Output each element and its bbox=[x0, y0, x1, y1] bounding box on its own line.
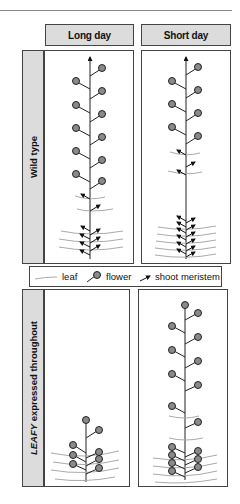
leaf-icon bbox=[35, 277, 57, 279]
legend: leaf flower shoot meristem bbox=[29, 266, 222, 287]
panel-wild-type-short-day bbox=[141, 50, 231, 264]
row-label-leafy: LEAFY expressed throughout bbox=[22, 289, 44, 487]
plant-diagram bbox=[142, 51, 232, 265]
plant-diagram bbox=[139, 290, 229, 488]
legend-label-shoot-meristem: shoot meristem bbox=[155, 271, 220, 282]
row-label-wild-type: Wild type bbox=[22, 50, 44, 264]
cropped-page-header bbox=[0, 0, 240, 10]
shoot-meristem-icon bbox=[140, 276, 150, 281]
row-label-text: Wild type bbox=[28, 136, 39, 178]
row-label-text: LEAFY expressed throughout bbox=[28, 321, 39, 455]
legend-label-leaf: leaf bbox=[62, 271, 77, 282]
panel-leafy-long-day bbox=[44, 289, 130, 487]
panel-wild-type-long-day bbox=[44, 50, 134, 264]
flower-icon bbox=[87, 272, 101, 283]
column-header-short-day: Short day bbox=[141, 24, 231, 46]
plant-diagram bbox=[45, 290, 131, 488]
column-header-long-day: Long day bbox=[45, 24, 134, 46]
panel-leafy-short-day bbox=[138, 289, 228, 487]
legend-label-flower: flower bbox=[106, 271, 131, 282]
plant-diagram bbox=[45, 51, 135, 265]
